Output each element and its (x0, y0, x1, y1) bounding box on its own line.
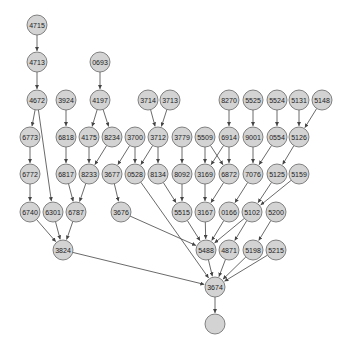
graph-node-5148[interactable]: 5148 (312, 90, 332, 110)
graph-node-5215[interactable]: 5215 (266, 240, 286, 260)
node-label: 4197 (92, 97, 108, 104)
graph-node-4713[interactable]: 4713 (27, 52, 47, 72)
graph-node-5131[interactable]: 5131 (289, 90, 309, 110)
node-label: 3824 (55, 247, 71, 254)
edge-6301-to-3824 (56, 222, 61, 240)
graph-node-6740[interactable]: 6740 (20, 202, 40, 222)
node-label: 8092 (174, 171, 190, 178)
graph-node-3674[interactable]: 3674 (205, 277, 225, 297)
node-label: 5131 (291, 97, 307, 104)
edge-5198-to-3674 (223, 257, 246, 279)
graph-node-5524[interactable]: 5524 (267, 90, 287, 110)
node-label: 3714 (140, 97, 156, 104)
edge-3713-to-3712 (161, 110, 167, 127)
graph-node-5126[interactable]: 5126 (289, 127, 309, 147)
graph-node-0554[interactable]: 0554 (267, 127, 287, 147)
node-label: 3674 (207, 284, 223, 291)
node-label: 0693 (92, 59, 108, 66)
edge-5509-to-6872 (210, 145, 223, 164)
graph-node-6872[interactable]: 6872 (219, 164, 239, 184)
node-label: 5515 (174, 209, 190, 216)
node-label: 5200 (268, 209, 284, 216)
graph-node-3169[interactable]: 3169 (195, 164, 215, 184)
node-label: 3676 (113, 209, 129, 216)
node-label: 8233 (81, 171, 97, 178)
edge-4672-to-6773 (32, 110, 35, 126)
graph-node-5159[interactable]: 5159 (289, 164, 309, 184)
graph-node-7076[interactable]: 7076 (243, 164, 263, 184)
node-label: 6914 (221, 134, 237, 141)
edge-4871-to-3674 (219, 259, 226, 276)
node-label: 3779 (174, 134, 190, 141)
node-label: 3713 (162, 97, 178, 104)
graph-node-5488[interactable]: 5488 (196, 240, 216, 260)
graph-node-3167[interactable]: 3167 (195, 202, 215, 222)
graph-node-3712[interactable]: 3712 (148, 127, 168, 147)
node-label: 0554 (269, 134, 285, 141)
graph-node-5525[interactable]: 5525 (243, 90, 263, 110)
node-label: 4871 (221, 247, 237, 254)
graph-node-3713[interactable]: 3713 (160, 90, 180, 110)
graph-node-4871[interactable]: 4871 (219, 240, 239, 260)
graph-node-3779[interactable]: 3779 (172, 127, 192, 147)
graph-node-5200[interactable]: 5200 (266, 202, 286, 222)
graph-node-6772[interactable]: 6772 (20, 164, 40, 184)
edge-6872-to-3167 (211, 183, 224, 203)
graph-node-0693[interactable]: 0693 (90, 52, 110, 72)
graph-node-5198[interactable]: 5198 (243, 240, 263, 260)
graph-node-8233[interactable]: 8233 (79, 164, 99, 184)
node-label: 3712 (150, 134, 166, 141)
graph-node-6818[interactable]: 6818 (56, 127, 76, 147)
graph-node-3677[interactable]: 3677 (102, 164, 122, 184)
node-label: 5488 (198, 247, 214, 254)
edge-5102-to-4871 (235, 221, 247, 241)
graph-node-8234[interactable]: 8234 (102, 127, 122, 147)
graph-node-6301[interactable]: 6301 (43, 202, 63, 222)
edge-3712-to-0528 (141, 146, 153, 165)
graph-node-6914[interactable]: 6914 (219, 127, 239, 147)
graph-node-3714[interactable]: 3714 (138, 90, 158, 110)
node-label: 5524 (269, 97, 285, 104)
graph-node-8270[interactable]: 8270 (219, 90, 239, 110)
edge-5148-to-5126 (305, 109, 317, 128)
graph-node-0528[interactable]: 0528 (125, 164, 145, 184)
graph-node-9001[interactable]: 9001 (243, 127, 263, 147)
node-label: 6818 (58, 134, 74, 141)
graph-node-5509[interactable]: 5509 (195, 127, 215, 147)
edge-4672-to-6301 (38, 110, 51, 201)
graph-node-3824[interactable]: 3824 (53, 240, 73, 260)
graph-node-3924[interactable]: 3924 (56, 90, 76, 110)
graph-node-root[interactable] (205, 314, 225, 334)
node-label: 6772 (22, 171, 38, 178)
node-layer: 4715471306934672392441973714371382705525… (20, 15, 332, 334)
graph-node-6773[interactable]: 6773 (20, 127, 40, 147)
graph-canvas: 4715471306934672392441973714371382705525… (0, 0, 349, 351)
graph-node-3700[interactable]: 3700 (125, 127, 145, 147)
node-label: 3700 (127, 134, 143, 141)
graph-node-4175[interactable]: 4175 (79, 127, 99, 147)
graph-node-8092[interactable]: 8092 (172, 164, 192, 184)
graph-node-3676[interactable]: 3676 (111, 202, 131, 222)
graph-node-4197[interactable]: 4197 (90, 90, 110, 110)
graph-node-5125[interactable]: 5125 (267, 164, 287, 184)
graph-node-6787[interactable]: 6787 (66, 202, 86, 222)
edge-8234-to-8233 (95, 146, 107, 165)
graph-node-4715[interactable]: 4715 (27, 15, 47, 35)
edge-5126-to-5125 (283, 146, 294, 165)
edge-6914-to-3169 (211, 145, 224, 164)
node-label: 5148 (314, 97, 330, 104)
graph-node-4672[interactable]: 4672 (27, 90, 47, 110)
edge-0528-to-3674 (141, 182, 209, 278)
graph-node-5102[interactable]: 5102 (242, 202, 262, 222)
edge-0554-to-7076 (259, 145, 272, 164)
node-label: 4672 (29, 97, 45, 104)
graph-node-5515[interactable]: 5515 (172, 202, 192, 222)
node-label: 6872 (221, 171, 237, 178)
node-label: 4715 (29, 22, 45, 29)
node-label: 0528 (127, 171, 143, 178)
graph-node-0166[interactable]: 0166 (219, 202, 239, 222)
edge-5125-to-5102 (258, 182, 272, 202)
dependency-graph: 4715471306934672392441973714371382705525… (0, 0, 349, 351)
graph-node-8134[interactable]: 8134 (148, 164, 168, 184)
graph-node-6817[interactable]: 6817 (56, 164, 76, 184)
